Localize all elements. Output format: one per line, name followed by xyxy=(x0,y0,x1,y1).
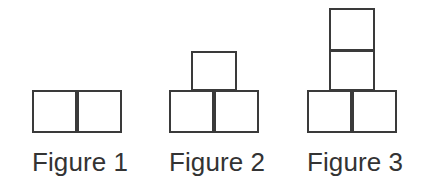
figure-3-cell-stack-2 xyxy=(329,8,375,51)
figure-3-cell-stack-1 xyxy=(329,50,375,91)
figure-2-cell-stack-1 xyxy=(191,51,237,91)
figure-1-group: Figure 1 xyxy=(32,0,122,191)
figure-3-cell-base-right xyxy=(352,90,397,133)
figure-3-cell-base-left xyxy=(307,90,352,133)
figure-3-group: Figure 3 xyxy=(307,0,397,191)
figure-2-caption: Figure 2 xyxy=(169,147,259,177)
figure-1-caption: Figure 1 xyxy=(32,147,122,177)
figure-1-cell-base-left xyxy=(32,90,77,133)
figure-sequence-diagram: Figure 1 Figure 2 Figure 3 xyxy=(0,0,421,191)
figure-1-cell-base-right xyxy=(77,90,122,133)
figure-2-cell-base-right xyxy=(214,90,259,133)
figure-2-group: Figure 2 xyxy=(169,0,259,191)
figure-3-caption: Figure 3 xyxy=(307,147,397,177)
figure-2-cell-base-left xyxy=(169,90,214,133)
